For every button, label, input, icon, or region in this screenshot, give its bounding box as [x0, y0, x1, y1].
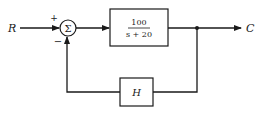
output-label: C: [246, 22, 255, 35]
summing-junction: Σ: [60, 20, 76, 36]
denominator: s + 20: [126, 30, 152, 39]
sigma-symbol: Σ: [64, 23, 71, 34]
feedback-block: H: [120, 78, 153, 106]
feedback-block-label: H: [131, 87, 141, 98]
forward-transfer-block: 100 s + 20: [110, 9, 168, 46]
input-label: R: [7, 22, 16, 35]
plus-sign: +: [50, 13, 58, 23]
numerator: 100: [131, 18, 146, 27]
block-diagram: R Σ + − 100 s + 20 C H: [0, 0, 260, 113]
minus-sign: −: [54, 36, 62, 47]
forward-block-rect: [110, 9, 168, 46]
